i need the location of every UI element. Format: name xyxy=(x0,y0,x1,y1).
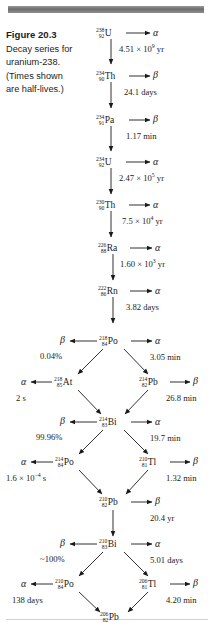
particle-po214-alpha: α xyxy=(21,457,26,467)
halflife-pa234: 1.17 min xyxy=(126,131,157,140)
nuclide-pb206: 20682Pb xyxy=(100,612,119,623)
particle-pa234-beta: β xyxy=(153,114,158,124)
nuclide-po214: 21484Po xyxy=(55,457,74,468)
particle-po218-alpha: α xyxy=(155,336,160,346)
halflife-po210: 138 days xyxy=(12,595,43,604)
pa234-az: 23491 xyxy=(96,115,104,126)
halflife-u234: 2.47 × 105 yr xyxy=(119,173,164,182)
halflife-rn222: 3.82 days xyxy=(126,302,159,311)
nuclide-po210: 21084Po xyxy=(55,579,74,590)
u234-az: 23492 xyxy=(96,157,104,168)
pb210-az: 21082 xyxy=(99,497,107,508)
halflife-tl206: 4.20 min xyxy=(166,595,197,604)
branch-bi214-beta: 99.96% xyxy=(36,433,63,442)
halflife-pb210: 20.4 yr xyxy=(150,513,174,522)
pb214-az: 21482 xyxy=(139,377,147,388)
halflife-ra226: 1.60 × 103 yr xyxy=(120,259,165,268)
particle-pb214-beta: β xyxy=(193,376,198,386)
nuclide-u238: 23892U xyxy=(96,28,112,39)
arrow-layer xyxy=(0,0,214,631)
halflife-th234: 24.1 days xyxy=(124,87,157,96)
bi210-az: 21083 xyxy=(99,539,107,550)
po218-az: 21884 xyxy=(99,336,107,347)
particle-tl210-beta: β xyxy=(193,456,198,466)
particle-at218-alpha: α xyxy=(21,377,26,387)
halflife-po218: 3.05 min xyxy=(150,352,181,361)
nuclide-tl210: 21081Tl xyxy=(139,457,156,468)
halflife-tl210: 1.32 min xyxy=(166,473,197,482)
nuclide-pb214: 21482Pb xyxy=(139,377,158,388)
particle-u234-alpha: α xyxy=(153,157,158,167)
th234-az: 23490 xyxy=(96,71,104,82)
nuclide-bi210: 21083Bi xyxy=(99,539,117,550)
branch-bi210-beta: ~100% xyxy=(40,555,65,564)
particle-u238-alpha: α xyxy=(153,28,158,38)
halflife-pb214: 26.8 min xyxy=(166,393,197,402)
at218-az: 21885 xyxy=(54,377,62,388)
nuclide-bi214: 21483Bi xyxy=(99,417,117,428)
nuclide-rn222: 22286Rn xyxy=(98,286,118,297)
decay-series-figure: Figure 20.3 Decay series for uranium-238… xyxy=(0,0,214,631)
halflife-po214: 1.6 × 10−4 s xyxy=(6,473,46,482)
particle-th230-alpha: α xyxy=(153,200,158,210)
th230-az: 23090 xyxy=(96,200,104,211)
halflife-u238: 4.51 × 109 yr xyxy=(119,44,164,53)
particle-rn222-alpha: α xyxy=(155,286,160,296)
particle-bi214-beta: β xyxy=(60,416,65,426)
nuclide-pb210: 21082Pb xyxy=(99,497,118,508)
particle-po218-beta: β xyxy=(60,335,65,345)
tl210-az: 21081 xyxy=(139,457,147,468)
nuclide-po218: 21884Po xyxy=(99,336,118,347)
halflife-at218: 2 s xyxy=(16,393,26,402)
particle-bi210-alpha: α xyxy=(155,539,160,549)
nuclide-u234: 23492U xyxy=(96,157,112,168)
po214-az: 21484 xyxy=(55,457,63,468)
branch-po218-beta: 0.04% xyxy=(40,352,62,361)
ra226-az: 22688 xyxy=(98,243,106,254)
nuclide-tl206: 20681Tl xyxy=(139,579,156,590)
nuclide-ra226: 22688Ra xyxy=(98,243,117,254)
rn222-az: 22286 xyxy=(98,286,106,297)
particle-ra226-alpha: α xyxy=(155,243,160,253)
po210-az: 21084 xyxy=(55,579,63,590)
nuclide-pa234: 23491Pa xyxy=(96,115,114,126)
tl206-az: 20681 xyxy=(139,579,147,590)
particle-bi214-alpha: α xyxy=(155,417,160,427)
nuclide-at218: 21885At xyxy=(54,377,72,388)
bi214-az: 21483 xyxy=(99,417,107,428)
particle-tl206-beta: β xyxy=(193,578,198,588)
nuclide-th234: 23490Th xyxy=(96,71,115,82)
particle-po210-alpha: α xyxy=(21,579,26,589)
particle-bi210-beta: β xyxy=(60,538,65,548)
nuclide-th230: 23090Th xyxy=(96,200,115,211)
pb206-az: 20682 xyxy=(100,612,108,623)
halflife-bi214: 19.7 min xyxy=(150,433,181,442)
particle-th234-beta: β xyxy=(153,70,158,80)
halflife-th230: 7.5 × 104 yr xyxy=(122,216,163,225)
halflife-bi210: 5.01 days xyxy=(150,555,183,564)
particle-pb210-beta: β xyxy=(155,496,160,506)
u238-az: 23892 xyxy=(96,28,104,39)
